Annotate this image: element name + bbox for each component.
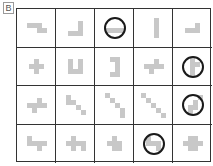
tile-block — [78, 31, 83, 36]
grid-cell[interactable] — [56, 86, 95, 125]
tile-shape — [141, 93, 166, 118]
tile-block — [193, 146, 198, 151]
tile-block — [37, 146, 42, 151]
selection-circle-icon — [182, 56, 204, 78]
tile-shape — [183, 136, 203, 151]
grid-cell[interactable] — [95, 48, 134, 87]
tile-block — [71, 146, 76, 151]
tile-shape — [149, 18, 159, 38]
grid-cell[interactable] — [17, 125, 56, 164]
tile-block — [198, 141, 203, 146]
tile-block — [154, 33, 159, 38]
tile-block — [159, 64, 164, 69]
tile-shape — [144, 59, 164, 74]
selection-circle-icon — [143, 133, 165, 155]
tile-shape — [110, 57, 120, 77]
tile-shape — [68, 21, 83, 36]
grid-cell[interactable] — [56, 9, 95, 48]
grid-cell[interactable] — [95, 86, 134, 125]
tile-shape — [185, 23, 200, 33]
tile-block — [81, 110, 86, 115]
selection-circle-icon — [182, 94, 204, 116]
grid-cell[interactable] — [173, 48, 212, 87]
tile-shape — [27, 136, 47, 151]
grid-cell[interactable] — [134, 9, 173, 48]
tile-block — [34, 69, 39, 74]
tile-shape — [66, 136, 86, 151]
tile-block — [42, 103, 47, 108]
tile-block — [42, 141, 47, 146]
tile-shape — [68, 59, 83, 74]
tile-block — [161, 113, 166, 118]
tile-block — [120, 113, 125, 118]
tile-block — [115, 72, 120, 77]
shape-grid — [16, 8, 211, 162]
grid-cell[interactable] — [95, 9, 134, 48]
grid-cell[interactable] — [56, 48, 95, 87]
grid-cell[interactable] — [95, 125, 134, 164]
grid-cell[interactable] — [173, 125, 212, 164]
tile-block — [42, 28, 47, 33]
tile-shape — [107, 136, 122, 151]
grid-cell[interactable] — [134, 86, 173, 125]
grid-cell[interactable] — [173, 9, 212, 48]
grid-cell[interactable] — [134, 48, 173, 87]
tile-shape — [27, 23, 47, 33]
grid-cell[interactable] — [17, 86, 56, 125]
tile-block — [195, 28, 200, 33]
panel-label: B — [3, 2, 14, 14]
tile-shape — [105, 93, 125, 118]
tile-block — [117, 146, 122, 151]
tile-block — [149, 69, 154, 74]
grid-cell[interactable] — [17, 48, 56, 87]
tile-block — [78, 69, 83, 74]
grid-cell[interactable] — [56, 125, 95, 164]
tile-shape — [66, 95, 86, 115]
grid-cell[interactable] — [173, 86, 212, 125]
tile-shape — [29, 59, 44, 74]
selection-circle-icon — [104, 17, 126, 39]
grid-cell[interactable] — [17, 9, 56, 48]
tile-block — [39, 64, 44, 69]
tile-block — [66, 100, 71, 105]
tile-block — [81, 146, 86, 151]
tile-block — [32, 108, 37, 113]
grid-cell[interactable] — [134, 125, 173, 164]
tile-shape — [27, 98, 47, 113]
